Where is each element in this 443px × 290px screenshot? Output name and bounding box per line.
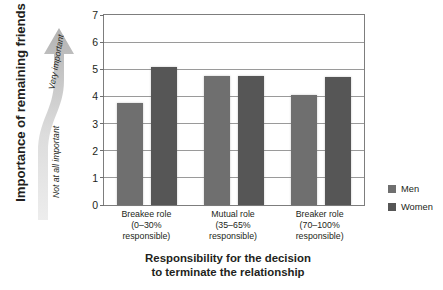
x-axis-title-line: Responsibility for the decision (78, 252, 378, 266)
y-axis-tick-mark (100, 150, 104, 151)
category-label-line: (0–30% (98, 220, 194, 231)
gridline (104, 69, 364, 70)
y-axis-tick-label: 2 (92, 145, 98, 156)
x-axis-tick-labels: Breakee role(0–30%responsible)Mutual rol… (103, 209, 365, 253)
y-axis-label-container: Importance of remaining friends (0, 0, 34, 222)
category-label-line: Mutual role (185, 209, 281, 220)
bar-men-1 (117, 103, 143, 205)
legend-label: Men (401, 184, 419, 194)
y-axis-tick-mark (100, 177, 104, 178)
y-axis-tick-mark (100, 42, 104, 43)
bar-women-3 (325, 77, 351, 205)
legend-swatch-icon (388, 185, 396, 193)
bar-men-3 (291, 95, 317, 205)
category-label-line: responsible) (98, 231, 194, 242)
importance-gradient-arrow: Very important Not at all important (30, 2, 88, 220)
bar-women-2 (238, 76, 264, 205)
category-label-line: (35–65% (185, 220, 281, 231)
bar-women-1 (151, 67, 177, 205)
category-label-line: Breaker role (272, 209, 368, 220)
legend-label: Women (401, 202, 433, 212)
y-axis-tick-mark (100, 96, 104, 97)
x-axis-category-label: Breakee role(0–30%responsible) (98, 209, 194, 243)
arrow-bottom-label: Not at all important (51, 112, 61, 212)
y-axis-tick-mark (100, 205, 104, 206)
y-axis-tick-label: 5 (92, 64, 98, 75)
y-axis-tick-mark (100, 69, 104, 70)
category-label-line: (70–100% (272, 220, 368, 231)
bar-men-2 (204, 76, 230, 205)
y-axis-tick-label: 0 (92, 200, 98, 211)
x-axis-category-label: Mutual role(35–65%responsible) (185, 209, 281, 243)
bar-chart-figure: Importance of remaining friends Very imp… (0, 0, 443, 290)
y-axis-tick-mark (100, 15, 104, 16)
legend-item-men[interactable]: Men (388, 183, 443, 194)
legend-swatch-icon (388, 203, 396, 211)
x-axis-category-label: Breaker role(70–100%responsible) (272, 209, 368, 243)
category-label-line: responsible) (185, 231, 281, 242)
category-label-line: Breakee role (98, 209, 194, 220)
plot-area: 01234567 (103, 14, 365, 206)
y-axis-tick-label: 1 (92, 173, 98, 184)
legend: MenWomen (388, 183, 443, 219)
legend-item-women[interactable]: Women (388, 201, 443, 212)
y-axis-tick-label: 3 (92, 118, 98, 129)
gridline (104, 42, 364, 43)
y-axis-tick-label: 7 (92, 10, 98, 21)
x-axis-title-line: to terminate the relationship (78, 266, 378, 280)
y-axis-tick-mark (100, 123, 104, 124)
x-axis-title: Responsibility for the decisionto termin… (78, 252, 378, 279)
category-label-line: responsible) (272, 231, 368, 242)
y-axis-tick-label: 4 (92, 91, 98, 102)
y-axis-label: Importance of remaining friends (13, 0, 28, 208)
y-axis-tick-label: 6 (92, 37, 98, 48)
